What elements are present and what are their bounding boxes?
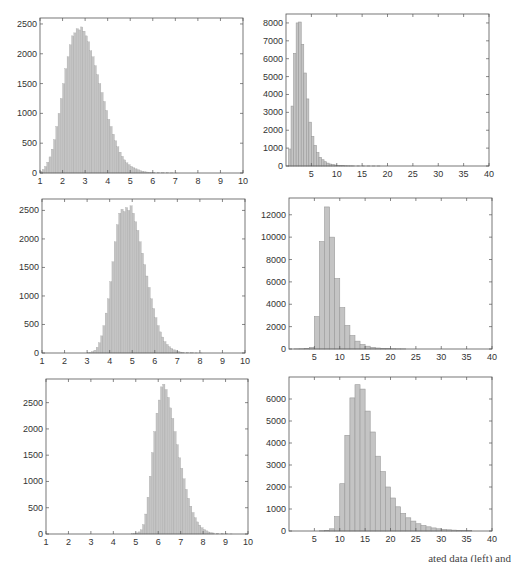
y-tick-label: 1500 bbox=[23, 450, 43, 460]
x-tick-label: 7 bbox=[178, 537, 183, 547]
histogram-bar bbox=[153, 309, 155, 353]
histogram-bar bbox=[121, 209, 123, 353]
histogram-bar bbox=[194, 518, 196, 534]
x-tick-label: 2 bbox=[66, 537, 71, 547]
histogram-bar bbox=[319, 157, 322, 166]
histogram-bar bbox=[365, 346, 370, 349]
y-tick-label: 0 bbox=[34, 348, 39, 358]
histogram-bar bbox=[110, 127, 112, 174]
histogram-bar bbox=[190, 506, 192, 534]
histogram-bar bbox=[51, 149, 53, 173]
histogram-bar bbox=[49, 157, 51, 173]
histogram-bar bbox=[145, 514, 147, 534]
y-tick-label: 0 bbox=[278, 161, 283, 171]
histogram-bar bbox=[355, 385, 360, 531]
histogram-bar bbox=[81, 27, 83, 173]
histogram-bar bbox=[121, 156, 123, 173]
y-tick-label: 2500 bbox=[23, 398, 43, 408]
histogram-bar bbox=[119, 213, 121, 353]
histogram-bar bbox=[311, 136, 314, 166]
histogram-bar bbox=[365, 411, 370, 531]
y-tick-label: 6000 bbox=[266, 277, 286, 287]
histogram-bar bbox=[99, 84, 101, 173]
histogram-bar bbox=[335, 517, 340, 531]
y-tick-label: 1500 bbox=[17, 79, 37, 89]
histogram-bar bbox=[146, 276, 148, 353]
histogram-bar bbox=[96, 75, 98, 173]
x-tick-label: 25 bbox=[411, 352, 421, 362]
histogram-bar bbox=[150, 299, 152, 353]
histogram-bar bbox=[199, 525, 201, 534]
histogram-bar bbox=[144, 265, 146, 353]
histogram-bars bbox=[40, 27, 178, 173]
histogram-bar bbox=[360, 345, 365, 349]
histogram-bar bbox=[350, 398, 355, 531]
y-tick-label: 0 bbox=[38, 529, 43, 539]
histogram-bar bbox=[42, 169, 44, 173]
y-tick-label: 6000 bbox=[263, 54, 283, 64]
histogram-row2-right: 5101520253035400200040006000800010000120… bbox=[255, 185, 511, 370]
histogram-bar bbox=[157, 326, 159, 353]
histogram-bar bbox=[294, 53, 297, 166]
histogram-bar bbox=[141, 253, 143, 353]
histogram-bars bbox=[87, 206, 202, 353]
histogram-bar bbox=[126, 163, 128, 173]
histogram-bars bbox=[294, 207, 406, 349]
histogram-bar bbox=[112, 134, 114, 173]
y-tick-label: 0 bbox=[281, 526, 286, 536]
x-tick-label: 4 bbox=[111, 537, 116, 547]
x-tick-label: 9 bbox=[223, 537, 228, 547]
histogram-bar bbox=[112, 262, 114, 353]
x-tick-label: 15 bbox=[357, 169, 367, 179]
histogram-row1-right: 5101520253035400100020003000400050006000… bbox=[255, 0, 511, 190]
histogram-plot: 5101520253035400100020003000400050006000 bbox=[255, 365, 511, 559]
histogram-bar bbox=[154, 432, 156, 534]
histogram-bar bbox=[132, 168, 134, 173]
histogram-bar bbox=[110, 282, 112, 353]
y-tick-label: 10000 bbox=[261, 232, 286, 242]
y-tick-label: 12000 bbox=[261, 210, 286, 220]
histogram-bar bbox=[108, 119, 110, 173]
x-tick-label: 5 bbox=[133, 537, 138, 547]
histogram-bar bbox=[139, 242, 141, 353]
histogram-row2-left: 1234567891005001000150020002500 bbox=[0, 185, 255, 370]
x-tick-label: 10 bbox=[335, 534, 345, 544]
histogram-bar bbox=[322, 160, 325, 166]
histogram-bar bbox=[396, 507, 401, 531]
histogram-bar bbox=[176, 445, 178, 534]
histogram-plot: 1234567891005001000150020002500 bbox=[0, 365, 255, 559]
histogram-bar bbox=[125, 208, 127, 353]
histogram-bar bbox=[406, 518, 411, 531]
histogram-bar bbox=[156, 413, 158, 534]
histogram-bar bbox=[101, 336, 103, 353]
histogram-bar bbox=[56, 127, 58, 174]
y-tick-label: 2500 bbox=[19, 205, 39, 215]
y-tick-label: 2000 bbox=[266, 322, 286, 332]
histogram-row3-right: 5101520253035400100020003000400050006000 bbox=[255, 365, 511, 559]
y-tick-label: 2000 bbox=[17, 49, 37, 59]
x-tick-label: 10 bbox=[335, 352, 345, 362]
histogram-bar bbox=[147, 497, 149, 534]
histogram-bar bbox=[169, 408, 171, 534]
histogram-bar bbox=[134, 222, 136, 353]
histogram-bar bbox=[385, 487, 390, 531]
histogram-bar bbox=[155, 318, 157, 353]
histogram-bar bbox=[391, 498, 396, 531]
histogram-bar bbox=[299, 22, 302, 166]
histogram-bar bbox=[421, 526, 426, 532]
histogram-bar bbox=[165, 390, 167, 534]
histogram-bar bbox=[192, 512, 194, 534]
histogram-plot: 5101520253035400200040006000800010000120… bbox=[255, 185, 511, 370]
histogram-bar bbox=[411, 521, 416, 531]
histogram-bar bbox=[330, 237, 335, 349]
histogram-bar bbox=[65, 69, 67, 173]
y-tick-label: 1500 bbox=[19, 262, 39, 272]
y-axis: 020004000600080001000012000 bbox=[261, 210, 492, 354]
histogram-bar bbox=[163, 384, 165, 534]
x-tick-label: 3 bbox=[88, 537, 93, 547]
histogram-bar bbox=[74, 33, 76, 173]
y-tick-label: 8000 bbox=[266, 255, 286, 265]
histogram-bar bbox=[340, 484, 345, 531]
histogram-bar bbox=[103, 101, 105, 173]
x-tick-label: 1 bbox=[43, 537, 48, 547]
